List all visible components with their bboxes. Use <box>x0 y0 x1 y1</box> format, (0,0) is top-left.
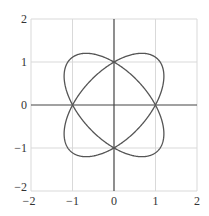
chart: −2−1012 −2−1012 <box>0 0 209 216</box>
y-tick-label: 2 <box>21 12 27 26</box>
y-tick-label: 1 <box>21 55 27 69</box>
x-tick-label: 0 <box>111 194 117 208</box>
y-tick-label: −2 <box>14 180 27 194</box>
y-tick-label: 0 <box>21 98 27 112</box>
y-tick-labels: −2−1012 <box>14 12 27 194</box>
y-tick-label: −1 <box>14 141 27 155</box>
x-tick-label: −2 <box>23 194 36 208</box>
x-tick-label: 2 <box>194 194 200 208</box>
x-tick-labels: −2−1012 <box>23 194 200 208</box>
axes <box>31 19 197 191</box>
x-tick-label: −1 <box>66 194 79 208</box>
x-tick-label: 1 <box>153 194 159 208</box>
